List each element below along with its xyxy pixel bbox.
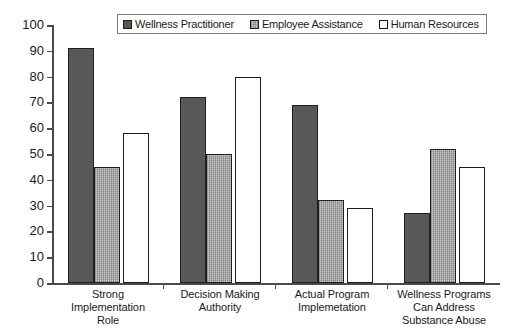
y-axis-tick-label: 20 xyxy=(0,224,44,237)
y-axis-tick-label: 50 xyxy=(0,147,44,160)
legend-swatch-icon xyxy=(379,20,388,29)
category-label-line: Implemetation xyxy=(278,301,386,314)
x-axis-line xyxy=(52,283,500,285)
y-axis-labels: 1009080706050403020100 xyxy=(0,25,52,283)
bar[interactable] xyxy=(347,208,373,283)
bar[interactable] xyxy=(430,149,456,283)
bar-group xyxy=(164,25,276,283)
category-label-line: Actual Program xyxy=(278,288,386,301)
legend-entry-employee-assistance: Employee Assistance xyxy=(250,18,363,30)
category-label-line: Can Address xyxy=(390,301,498,314)
x-axis-category-label: Actual ProgramImplemetation xyxy=(276,288,388,327)
plot-area xyxy=(52,25,500,283)
bar[interactable] xyxy=(94,167,120,283)
y-axis-tick-label: 70 xyxy=(0,95,44,108)
bar-group-bars xyxy=(276,25,388,283)
bar[interactable] xyxy=(206,154,232,283)
y-axis-tick-label: 60 xyxy=(0,121,44,134)
bar-group xyxy=(276,25,388,283)
bar[interactable] xyxy=(404,213,430,283)
bar[interactable] xyxy=(459,167,485,283)
x-axis-category-label: Decision MakingAuthority xyxy=(164,288,276,327)
bar-group xyxy=(388,25,500,283)
bar[interactable] xyxy=(68,48,94,283)
bar-group-bars xyxy=(164,25,276,283)
x-axis-category-labels: Strong ImplementationRoleDecision Making… xyxy=(52,288,500,327)
legend-label: Wellness Practitioner xyxy=(135,18,234,30)
y-axis-tick-label: 0 xyxy=(0,276,44,289)
legend-swatch-icon xyxy=(250,20,259,29)
y-axis-tick-label: 10 xyxy=(0,250,44,263)
category-label-line: Authority xyxy=(166,301,274,314)
legend-swatch-icon xyxy=(123,20,132,29)
bar-group xyxy=(52,25,164,283)
x-axis-category-label: Strong ImplementationRole xyxy=(52,288,164,327)
category-label-line: Strong Implementation xyxy=(54,288,162,314)
bar[interactable] xyxy=(123,133,149,283)
bar[interactable] xyxy=(235,77,261,283)
bar[interactable] xyxy=(292,105,318,283)
chart-legend: Wellness Practitioner Employee Assistanc… xyxy=(117,14,487,34)
legend-label: Human Resources xyxy=(391,18,479,30)
x-axis-category-label: Wellness ProgramsCan AddressSubstance Ab… xyxy=(388,288,500,327)
y-axis-tick-label: 30 xyxy=(0,199,44,212)
legend-entry-human-resources: Human Resources xyxy=(379,18,479,30)
category-label-line: Substance Abuse xyxy=(390,314,498,327)
bar-groups xyxy=(52,25,500,283)
y-axis-tick-label: 90 xyxy=(0,44,44,57)
legend-entry-wellness-practitioner: Wellness Practitioner xyxy=(123,18,234,30)
category-label-line: Role xyxy=(54,314,162,327)
category-label-line: Decision Making xyxy=(166,288,274,301)
bar-group-bars xyxy=(388,25,500,283)
bar[interactable] xyxy=(180,97,206,283)
y-axis-tick-label: 100 xyxy=(0,18,44,31)
y-axis-tick-mark xyxy=(47,283,52,285)
legend-label: Employee Assistance xyxy=(262,18,363,30)
y-axis-tick-label: 80 xyxy=(0,70,44,83)
bar-group-bars xyxy=(52,25,164,283)
bar-chart: Wellness Practitioner Employee Assistanc… xyxy=(0,0,530,333)
category-label-line: Wellness Programs xyxy=(390,288,498,301)
y-axis-tick-label: 40 xyxy=(0,173,44,186)
bar[interactable] xyxy=(318,200,344,283)
